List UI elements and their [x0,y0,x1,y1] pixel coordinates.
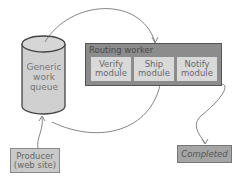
verify-module: Verifymodule [91,57,131,81]
notify-module: Notifymodule [177,57,217,81]
arrow-queue-to-router [45,9,155,42]
verify-module-line2: module [95,69,127,78]
queue-label-line2: work [22,72,66,82]
queue-label-line3: queue [22,82,66,92]
queue-label-line1: Generic [22,62,66,72]
arrow-notify-to-completed [196,84,225,143]
queue-label: Generic work queue [22,62,66,92]
routing-worker-box: Routing worker Verifymodule Shipmodule N… [85,43,222,86]
producer-line2: (web site) [14,161,56,170]
producer-box: Producer(web site) [10,148,60,173]
ship-module: Shipmodule [134,57,174,81]
routing-worker-title: Routing worker [89,45,153,55]
ship-module-line2: module [138,69,170,78]
completed-box: Completed [177,145,232,163]
notify-module-line2: module [181,69,213,78]
arrow-producer-to-queue [38,117,43,148]
arrow-ship-to-queue [52,85,160,133]
